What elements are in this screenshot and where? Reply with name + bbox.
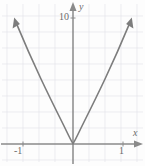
y-axis-label: y [79,2,83,12]
y-tick-label-10: 10 [59,12,69,22]
x-tick-label-one: 1 [119,146,124,156]
x-tick-label-negative-one: -1 [14,146,22,156]
plot-canvas [0,0,145,166]
parabola-graph-figure: y x 10 -1 1 [0,0,145,166]
x-axis-label: x [133,128,137,138]
